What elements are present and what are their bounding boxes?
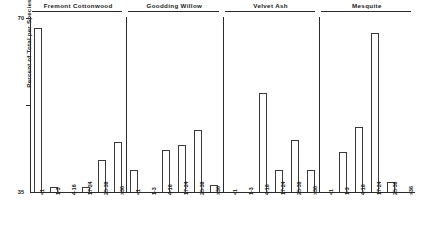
panel-title-fremont-cottonwood: Fremont Cottonwood bbox=[30, 2, 126, 9]
panel-top-rule bbox=[321, 11, 411, 12]
x-axis-tick-label: <1 bbox=[136, 189, 141, 195]
chart-container: Percent of Total per Species 3570Fremont… bbox=[0, 0, 422, 237]
panel-separator bbox=[223, 17, 224, 193]
x-axis-tick-label: 1-3 bbox=[345, 187, 350, 195]
x-axis-tick-label: <1 bbox=[329, 189, 334, 195]
panel-title-mesquite: Mesquite bbox=[319, 2, 415, 9]
bar bbox=[355, 127, 363, 192]
y-axis-tick: 35 bbox=[26, 105, 30, 106]
x-axis-tick-label: >36 bbox=[409, 186, 414, 195]
x-axis-tick-label: 4-16 bbox=[72, 184, 77, 195]
plot-area: 3570Fremont Cottonwood<11-34-1617-2425-3… bbox=[30, 17, 415, 193]
y-axis-line bbox=[30, 17, 31, 193]
panel-separator bbox=[126, 17, 127, 193]
x-axis-tick-label: 4-16 bbox=[168, 184, 173, 195]
panel-top-rule bbox=[225, 11, 315, 12]
bar bbox=[114, 142, 122, 192]
x-axis-tick-label: 4-16 bbox=[265, 184, 270, 195]
x-axis-tick-label: 1-3 bbox=[152, 187, 157, 195]
x-axis-tick-label: >36 bbox=[216, 186, 221, 195]
y-axis-tick: 70 bbox=[26, 18, 30, 19]
x-axis-tick-label: 17-24 bbox=[281, 181, 286, 195]
panel-separator bbox=[319, 17, 320, 193]
bar bbox=[34, 28, 42, 192]
panel-title-velvet-ash: Velvet Ash bbox=[223, 2, 319, 9]
x-axis-tick-label: 25-36 bbox=[297, 181, 302, 195]
x-axis-tick-label: 1-3 bbox=[56, 187, 61, 195]
x-axis-tick-label: >36 bbox=[313, 186, 318, 195]
x-axis-tick-label: <1 bbox=[40, 189, 45, 195]
x-axis-tick-label: 25-36 bbox=[200, 181, 205, 195]
y-axis-tick-label: 35 bbox=[18, 190, 24, 196]
x-axis-tick-label: 1-3 bbox=[249, 187, 254, 195]
x-axis-tick-label: 17-24 bbox=[184, 181, 189, 195]
x-axis-tick-label: 4-16 bbox=[361, 184, 366, 195]
panel-top-rule bbox=[32, 11, 122, 12]
x-axis-tick-label: 25-36 bbox=[104, 181, 109, 195]
panel-title-goodding-willow: Goodding Willow bbox=[126, 2, 222, 9]
x-axis-tick-label: 25-36 bbox=[393, 181, 398, 195]
x-axis-tick-label: >36 bbox=[120, 186, 125, 195]
x-axis-tick-label: 17-24 bbox=[88, 181, 93, 195]
panel-top-rule bbox=[128, 11, 218, 12]
bar bbox=[259, 93, 267, 192]
x-axis-tick-label: 17-24 bbox=[377, 181, 382, 195]
x-axis-tick-label: <1 bbox=[233, 189, 238, 195]
y-axis-tick-label: 70 bbox=[18, 16, 24, 22]
bar bbox=[371, 33, 379, 192]
